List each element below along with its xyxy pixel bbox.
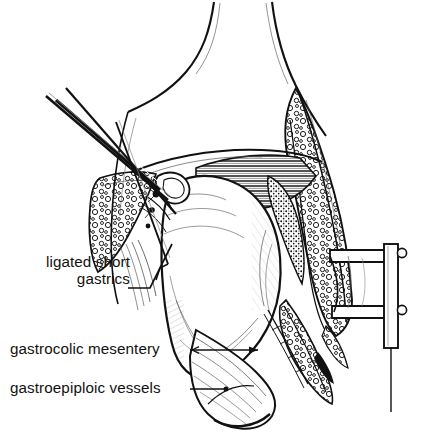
surgical-illustration-figure: ligated short gastrics gastrocolic mesen… [0,0,433,446]
label-line-2: gastrics [8,270,130,287]
label-ligated-short-gastrics: ligated short gastrics [8,253,130,287]
abdominal-wall-group [46,2,407,429]
label-gastrocolic-mesentery: gastrocolic mesentery [10,340,160,357]
label-gastroepiploic-vessels: gastroepiploic vessels [10,379,161,396]
label-line-1: ligated short [8,253,130,270]
abdominal-wall-incision-left [128,2,220,112]
retractor-post [384,244,407,412]
